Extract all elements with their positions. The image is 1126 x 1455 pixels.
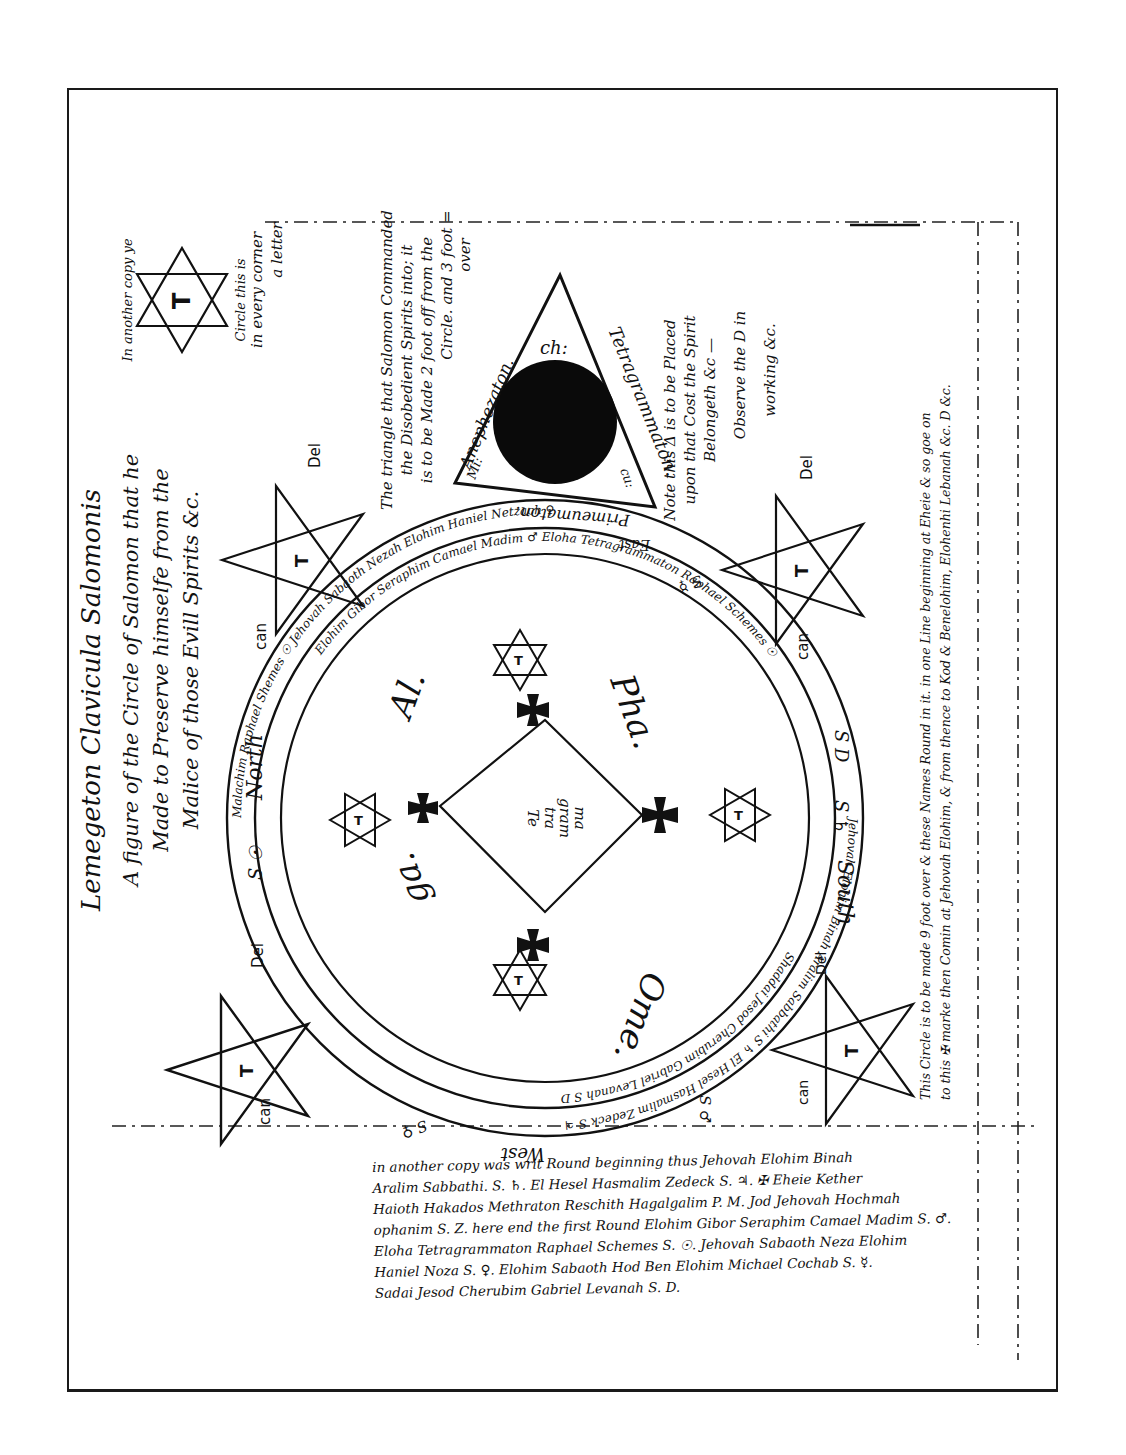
hexagram-note-text: In another copy ye Circle this is in eve… [120,221,286,362]
hexagram-note-icon: T [137,248,227,352]
right-margin-note: This Circle is to be made 9 foot over & … [918,384,953,1100]
heading-line: Made to Preserve himselfe from the [149,468,173,853]
compass-west-sign: S ♀ [399,1116,430,1142]
svg-text:Circle this is: Circle this is [233,258,248,341]
center-name-text: Te tra gram ma [524,798,589,838]
svg-text:T: T [514,973,523,988]
svg-text:Te: Te [524,809,542,827]
compass-sw-sign: S ♂ [696,1095,714,1124]
compass-south: South [833,860,858,926]
svg-text:Observe the D in: Observe the D in [731,311,749,439]
manuscript-page: T In another copy ye Circle this is in e… [0,0,1126,1455]
svg-text:can: can [256,1098,274,1125]
svg-text:Ome.: Ome. [606,967,675,1066]
svg-text:Del: Del [306,443,324,468]
cross-patty-icon [408,793,438,823]
svg-text:T: T [734,808,743,823]
svg-text:T: T [841,1044,862,1057]
heading-line: A figure of the Circle of Salomon that h… [119,454,143,888]
svg-text:can: can [252,623,270,650]
pentagram-bottom-left: T [167,996,308,1144]
bottom-note: in another copy was writ Round beginning… [372,1143,1025,1304]
pentagram-bottom-right: T [772,976,913,1124]
svg-text:Del: Del [798,455,816,480]
svg-text:T: T [236,1064,257,1077]
svg-text:ma: ma [571,806,589,829]
svg-text:to this ✠ marke then Comin at: to this ✠ marke then Comin at Jehovah El… [938,384,953,1100]
triangle-note-right: Note this Δ is to be Placed upon that Co… [661,311,779,522]
svg-text:working &c.: working &c. [761,323,779,416]
document-title: Lemegeton Clavicula Salomonis [76,489,106,912]
svg-text:T: T [168,292,196,309]
svg-text:In another copy ye: In another copy ye [120,238,135,362]
compass-south-sign: S ♄ [831,800,852,834]
svg-text:over: over [456,237,474,271]
svg-text:cu:: cu: [617,466,638,490]
ring-text-outer: Malachim Raphael Shemes ☉ Jehovah Sabaot… [230,503,555,819]
svg-text:the Disobedient Spirits into;: the Disobedient Spirits into; it [398,244,416,475]
cross-patty-icon [642,797,678,833]
svg-text:is to be Made 2 foot off from: is to be Made 2 foot off from the [418,237,436,483]
svg-text:Note this Δ is to be Placed: Note this Δ is to be Placed [661,319,679,521]
heading-line: Malice of those Evill Spirits &c. [179,491,203,830]
svg-text:T: T [791,564,812,577]
svg-text:T: T [291,554,312,567]
black-disc [493,360,617,484]
svg-text:Belongeth &c —: Belongeth &c — [701,338,719,463]
svg-text:Al.: Al. [379,666,433,726]
cross-patty-icon [517,929,549,961]
svg-text:This Circle is to be made 9 fo: This Circle is to be made 9 foot over & … [918,412,933,1100]
svg-text:a letter: a letter [268,221,286,277]
svg-text:in every corner: in every corner [248,231,266,348]
compass-north: North [242,734,267,801]
compass-east: East [618,537,651,553]
svg-text:T: T [514,653,523,668]
svg-text:The triangle that Salomon Comm: The triangle that Salomon Commanded [378,210,396,510]
title-block: Lemegeton Clavicula Salomonis A figure o… [76,454,203,912]
svg-text:Pha.: Pha. [602,668,666,754]
triangle-of-art: ch: Tetragrammaton. Anephezaton. Primeum… [454,275,683,530]
svg-text:upon that Cost the Spirit: upon that Cost the Spirit [681,314,699,504]
compass-se-sign: S D [831,730,852,763]
svg-text:can: can [794,633,812,660]
compass-north-sign: S ☉ [245,845,266,880]
svg-text:T: T [354,813,363,828]
svg-text:ch:: ch: [540,337,568,358]
svg-text:ga.: ga. [382,848,438,911]
svg-text:Circle. and 3 foot =: Circle. and 3 foot = [438,210,456,359]
quadrant-words: Al. Pha. Ome. ga. [379,666,675,1067]
svg-text:can: can [795,1080,811,1105]
